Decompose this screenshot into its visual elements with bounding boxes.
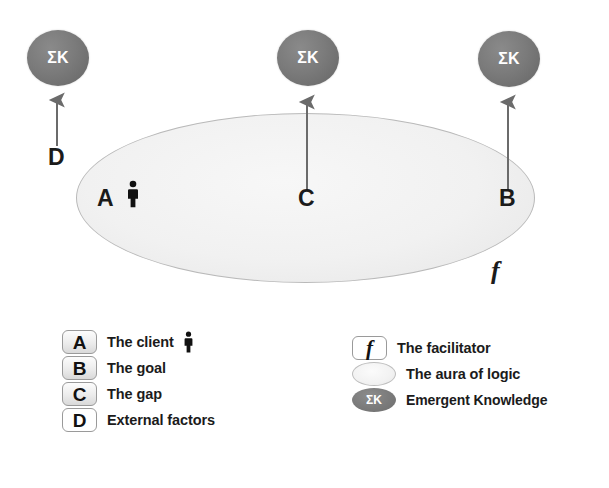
arrow-b xyxy=(491,90,527,194)
legend-key-box-c: C xyxy=(62,382,97,406)
legend-right-label-emergent-knowledge: Emergent Knowledge xyxy=(406,392,547,408)
emergent-knowledge-node-c: ΣK xyxy=(277,30,339,86)
legend-key-f-label: f xyxy=(366,338,373,359)
legend-key-sk-label: ΣK xyxy=(366,394,382,406)
emergent-knowledge-node-b: ΣK xyxy=(478,31,540,87)
legend-key-box-d: D xyxy=(62,408,97,432)
emergent-knowledge-node-d-label: ΣK xyxy=(47,50,69,66)
legend-key-b-label: B xyxy=(73,359,87,378)
label-b: B xyxy=(499,187,516,210)
legend-left: A The client B The goal C The gap xyxy=(62,329,215,433)
legend-key-box-b: B xyxy=(62,356,97,380)
legend-key-d-label: D xyxy=(73,411,87,430)
legend-left-item-b: B The goal xyxy=(62,355,215,381)
label-c: C xyxy=(298,187,315,210)
legend-aura-ellipse-icon xyxy=(352,362,396,386)
legend-key-a-label: A xyxy=(73,333,87,352)
legend-client-person-icon xyxy=(182,331,195,353)
diagram-canvas: ΣK ΣK ΣK D A C B f A xyxy=(0,0,609,488)
arrow-c xyxy=(290,90,326,194)
label-a: A xyxy=(97,187,114,210)
legend-key-box-a: A xyxy=(62,330,97,354)
legend-left-label-c: The gap xyxy=(107,386,162,402)
client-person-icon xyxy=(125,180,141,208)
legend-left-label-d: External factors xyxy=(107,412,215,428)
legend-left-label-b: The goal xyxy=(107,360,166,376)
legend-right-item-facilitator: f The facilitator xyxy=(352,335,547,361)
legend-key-box-f: f xyxy=(352,336,387,360)
legend-left-item-d: D External factors xyxy=(62,407,215,433)
label-f: f xyxy=(491,258,500,284)
legend-right-item-aura: The aura of logic xyxy=(352,361,547,387)
legend-left-label-a: The client xyxy=(107,334,174,350)
legend-right-label-facilitator: The facilitator xyxy=(397,340,491,356)
legend-left-item-c: C The gap xyxy=(62,381,215,407)
arrow-d xyxy=(40,88,76,150)
emergent-knowledge-node-b-label: ΣK xyxy=(498,51,520,67)
label-d: D xyxy=(48,146,65,169)
legend-right-label-aura: The aura of logic xyxy=(406,366,520,382)
emergent-knowledge-node-d: ΣK xyxy=(27,30,89,86)
legend-right: f The facilitator The aura of logic ΣK E… xyxy=(352,335,547,413)
legend-key-c-label: C xyxy=(73,385,87,404)
legend-left-item-a: A The client xyxy=(62,329,215,355)
emergent-knowledge-node-c-label: ΣK xyxy=(297,50,319,66)
legend-right-item-emergent-knowledge: ΣK Emergent Knowledge xyxy=(352,387,547,413)
legend-emergent-knowledge-icon: ΣK xyxy=(352,388,396,412)
